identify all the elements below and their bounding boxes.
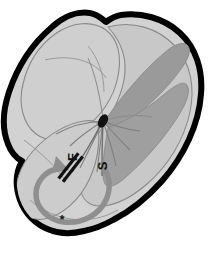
figure-root: * F S xyxy=(0,0,212,262)
fast-pathway-label: F xyxy=(65,153,80,161)
slow-pathway-label: S xyxy=(95,161,110,170)
asterisk-marker: * xyxy=(60,213,65,227)
heart-diagram: * F S xyxy=(0,0,212,262)
